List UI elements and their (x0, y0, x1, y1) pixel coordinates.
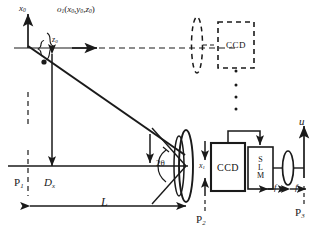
angle-2theta-label: 2θ (156, 159, 165, 168)
figure-canvas: x0 z0 o1(x0,y0,z0) P1 Dx L 2θ x1 P2 P3 u… (0, 0, 314, 234)
z0-axis-label: z0 (52, 36, 58, 45)
plane-p1-label: P1 (14, 177, 24, 190)
ghost-anchor-dot (235, 70, 238, 73)
object-point-marker (41, 59, 46, 64)
object-point-label: o1(x0,y0,z0) (57, 5, 95, 15)
diagram-vector-layer (0, 0, 314, 234)
u-axis-label: u (299, 116, 305, 127)
ellipsis-dot-3 (235, 108, 238, 111)
x1-label: x1 (199, 162, 205, 171)
ellipsis-dot-1 (235, 84, 238, 87)
lens-ghost-icon (192, 17, 203, 73)
focal-length-label-2: f (295, 183, 298, 192)
slm-letter-m: M (257, 172, 264, 180)
ccd-box-label: CCD (211, 143, 245, 191)
focal-length-label-1: f (274, 183, 277, 192)
slm-box-label: S L M (248, 147, 273, 189)
plane-p3-label: P3 (295, 207, 305, 220)
ellipsis-dot-2 (235, 96, 238, 99)
ccd-ghost-label: CCD (218, 22, 254, 68)
L-label: L (101, 196, 108, 208)
plane-p2-label: P2 (196, 214, 206, 227)
x0-axis-label: x0 (19, 4, 26, 14)
lens-fourier-icon (283, 151, 294, 185)
dx-label: Dx (44, 177, 55, 190)
